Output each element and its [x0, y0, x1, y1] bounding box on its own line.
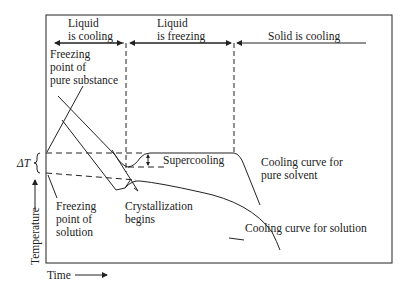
fp-solution-label-l2: point of — [56, 213, 92, 225]
phase-solid-cooling: Solid is cooling — [268, 30, 340, 42]
fp-pure-label-l1: Freezing — [50, 48, 90, 60]
fp-pure-pointer — [47, 86, 83, 152]
fp-solution-label-l3: solution — [56, 226, 93, 238]
phase-liquid-cooling-l1: Liquid — [68, 17, 99, 29]
solution-curve-pointer — [229, 238, 244, 240]
delta-t-label: ΔT — [17, 157, 30, 169]
fp-solution-pointer — [48, 175, 57, 198]
phase-liquid-freezing-l1: Liquid — [157, 17, 188, 29]
phase-liquid-cooling-l2: is cooling — [68, 30, 113, 42]
crystallization-label-l1: Crystallization — [125, 200, 193, 212]
curve-pure-label-l2: pure solvent — [261, 169, 318, 181]
crystallization-label-l2: begins — [125, 213, 155, 225]
x-axis-label: Time — [47, 269, 71, 281]
fp-solution-label-l1: Freezing — [56, 200, 96, 212]
cooling-curve-diagram — [0, 0, 409, 288]
fp-pure-label-l2: point of — [50, 61, 86, 73]
pure-solvent-curve — [58, 96, 260, 205]
curve-solution-label: Cooling curve for solution — [245, 222, 367, 234]
fp-pure-label-l3: pure substance — [50, 74, 118, 86]
y-axis-label: Temperature — [29, 207, 41, 265]
delta-t-brace — [34, 153, 40, 173]
phase-liquid-freezing-l2: is freezing — [157, 30, 205, 42]
curve-pure-label-l1: Cooling curve for — [261, 156, 343, 168]
fp-solution-line — [46, 173, 136, 180]
supercooling-label: Supercooling — [163, 154, 224, 166]
